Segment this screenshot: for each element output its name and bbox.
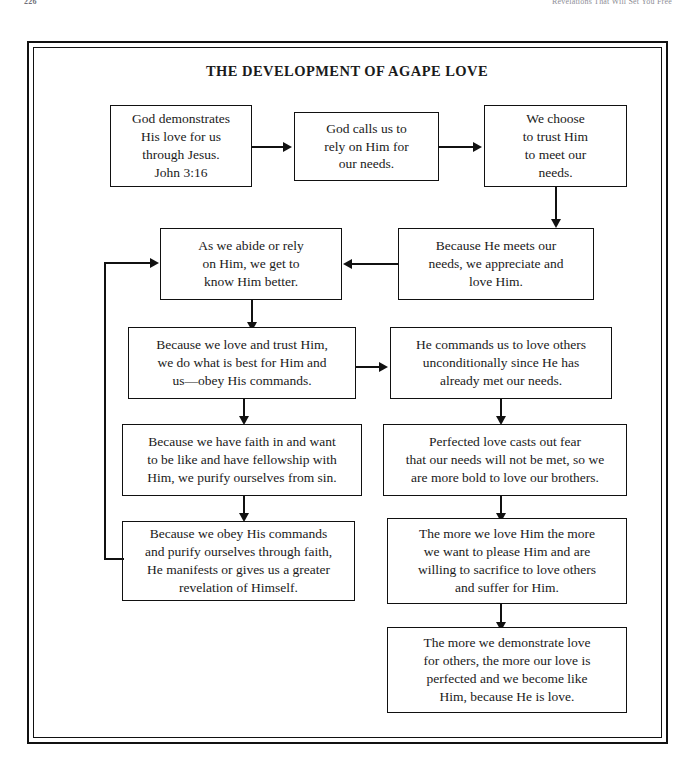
arrowhead-feedback-n10-n5 <box>150 258 159 268</box>
figure-title: THE DEVELOPMENT OF AGAPE LOVE <box>0 63 694 80</box>
node-because-we-have-faith: Because we have faith in and want to be … <box>122 424 362 496</box>
node-the-more-we-love-him: The more we love Him the more we want to… <box>387 518 627 604</box>
node-because-we-obey: Because we obey His commands and purify … <box>122 521 355 601</box>
arrowhead-n1-n2 <box>283 142 292 152</box>
arrowhead-n3-n4 <box>551 219 561 228</box>
arrowhead-n2-n3 <box>473 142 482 152</box>
node-because-he-meets: Because He meets our needs, we appreciat… <box>398 228 594 300</box>
node-he-commands-us: He commands us to love others unconditio… <box>390 327 612 399</box>
connector-n4-n5 <box>351 263 398 265</box>
feedback-segment-bottom <box>104 558 124 560</box>
connector-n2-n3 <box>439 146 475 148</box>
node-perfected-love: Perfected love casts out fear that our n… <box>383 424 627 496</box>
feedback-segment-vertical <box>104 262 106 560</box>
connector-n6-n7 <box>356 366 381 368</box>
connector-n1-n2 <box>252 146 285 148</box>
connector-n3-n4 <box>555 187 557 223</box>
node-as-we-abide: As we abide or rely on Him, we get to kn… <box>160 228 342 300</box>
arrowhead-n6-n7 <box>379 362 388 372</box>
node-the-more-we-demonstrate: The more we demonstrate love for others,… <box>387 627 627 713</box>
feedback-segment-top <box>104 262 152 264</box>
node-god-demonstrates: God demonstrates His love for us through… <box>110 105 252 187</box>
node-because-we-love-trust: Because we love and trust Him, we do wha… <box>128 327 356 399</box>
flowchart-canvas: THE DEVELOPMENT OF AGAPE LOVE God demons… <box>0 0 694 775</box>
arrowhead-n4-n5 <box>343 259 352 269</box>
node-god-calls-us: God calls us to rely on Him for our need… <box>294 112 439 181</box>
node-we-choose-trust: We choose to trust Him to meet our needs… <box>484 105 627 187</box>
